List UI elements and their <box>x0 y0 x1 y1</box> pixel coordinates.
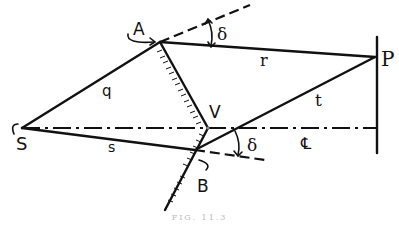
label-segment-s: s <box>108 139 115 155</box>
ray-t <box>195 57 375 150</box>
ray-diagram: A S V B P q r s t δ δ ℄ <box>0 0 399 226</box>
label-point-s: S <box>16 133 27 154</box>
lower-mirror-surface <box>165 128 208 210</box>
b-pointer-arrow <box>199 160 208 170</box>
label-delta-top: δ <box>217 24 227 44</box>
label-delta-bottom: δ <box>247 135 257 155</box>
label-segment-q: q <box>102 82 112 100</box>
label-point-a: A <box>133 19 145 39</box>
label-point-b: B <box>197 176 209 196</box>
ray-q <box>22 42 160 128</box>
label-segment-t: t <box>315 90 322 110</box>
upper-mirror-hatching <box>157 50 201 124</box>
label-centerline: ℄ <box>300 134 312 153</box>
label-point-p: P <box>381 47 394 71</box>
label-segment-r: r <box>260 51 268 70</box>
label-point-v: V <box>209 102 221 122</box>
upper-mirror-surface <box>160 42 208 128</box>
delta-bottom-angle-arrow <box>234 131 242 156</box>
vertex-v-marker <box>206 126 209 129</box>
figure-caption: FIG. 11.3 <box>0 213 399 222</box>
